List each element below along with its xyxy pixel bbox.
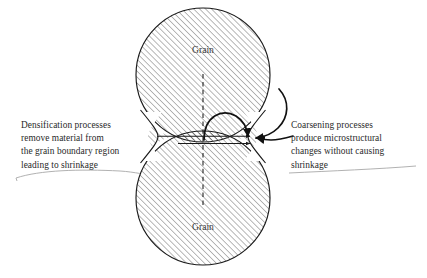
caption-coarsening: Coarsening processes produce microstruct… [291, 119, 384, 172]
grain-label-bottom: Grain [163, 221, 243, 232]
caption-coarsening-line-3: changes without causing [291, 145, 384, 158]
caption-coarsening-line-1: Coarsening processes [291, 119, 384, 132]
caption-densification-line-3: the grain boundary region [21, 145, 119, 158]
caption-densification-line-2: remove material from [21, 132, 119, 145]
caption-coarsening-line-4: shrinkage [291, 159, 384, 172]
caption-densification: Densification processes remove material … [21, 119, 119, 172]
caption-coarsening-line-2: produce microstructural [291, 132, 384, 145]
grain-label-top: Grain [163, 44, 243, 55]
caption-densification-line-1: Densification processes [21, 119, 119, 132]
caption-densification-line-4: leading to shrinkage [21, 159, 119, 172]
figure-canvas: Grain Grain Densification processes remo… [0, 0, 427, 278]
caption-left-underline-tick [16, 178, 17, 181]
grain-bottom-body [136, 131, 270, 265]
